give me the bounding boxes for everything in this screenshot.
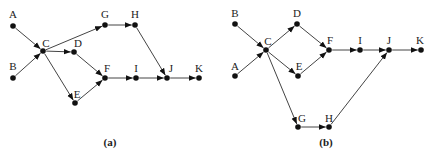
node-D	[294, 21, 300, 27]
node-C	[263, 47, 269, 53]
edge-A-C	[237, 52, 263, 74]
node-label-G: G	[101, 8, 109, 20]
edge-D-F	[299, 26, 326, 48]
node-E	[72, 100, 78, 106]
node-J	[386, 47, 392, 53]
node-label-A: A	[9, 8, 17, 20]
node-H	[132, 22, 138, 28]
node-label-B: B	[9, 60, 16, 72]
node-E	[295, 73, 301, 79]
edge-C-E	[268, 52, 295, 74]
node-G	[102, 22, 108, 28]
node-label-I: I	[134, 62, 138, 74]
node-label-C: C	[264, 35, 271, 47]
edge-E-F	[77, 80, 102, 101]
node-label-H: H	[131, 8, 139, 20]
edge-C-E	[45, 54, 74, 101]
edge-B-C	[15, 53, 40, 76]
network-diagrams: ABCDGHEFIJK(a) BACDEFIJKGH(b)	[0, 0, 436, 161]
edge-C-D	[46, 51, 71, 52]
node-C	[40, 48, 46, 54]
node-B	[232, 21, 238, 27]
node-D	[71, 49, 77, 55]
node-label-D: D	[74, 37, 82, 49]
edge-H-J	[137, 28, 166, 76]
node-I	[133, 75, 139, 81]
node-label-J: J	[169, 62, 174, 74]
node-label-F: F	[104, 62, 110, 74]
edge-H-J	[331, 53, 387, 125]
edge-E-F	[300, 52, 326, 74]
node-A	[232, 73, 238, 79]
node-label-F: F	[327, 34, 333, 46]
node-label-I: I	[358, 34, 362, 46]
node-label-C: C	[42, 37, 49, 49]
node-label-K: K	[195, 62, 203, 74]
diagram-a: ABCDGHEFIJK(a)	[9, 8, 203, 149]
node-K	[418, 47, 424, 53]
caption-b: (b)	[319, 136, 333, 149]
node-J	[164, 75, 170, 81]
node-label-E: E	[296, 60, 303, 72]
node-label-H: H	[325, 112, 333, 124]
node-label-A: A	[231, 60, 239, 72]
node-F	[326, 47, 332, 53]
node-G	[295, 124, 301, 130]
node-label-B: B	[231, 7, 238, 19]
diagram-b: BACDEFIJKGH(b)	[231, 7, 424, 149]
node-F	[102, 75, 108, 81]
node-K	[196, 75, 202, 81]
node-label-E: E	[74, 88, 81, 100]
node-label-G: G	[298, 112, 306, 124]
node-label-J: J	[387, 34, 392, 46]
node-label-K: K	[416, 34, 424, 46]
node-H	[326, 124, 332, 130]
node-I	[357, 47, 363, 53]
edge-D-F	[76, 54, 102, 76]
edge-C-D	[268, 26, 294, 48]
caption-a: (a)	[104, 136, 117, 149]
node-B	[10, 75, 16, 81]
node-label-D: D	[293, 7, 301, 19]
edge-A-C	[15, 28, 40, 49]
edge-B-C	[237, 26, 263, 48]
node-A	[10, 23, 16, 29]
